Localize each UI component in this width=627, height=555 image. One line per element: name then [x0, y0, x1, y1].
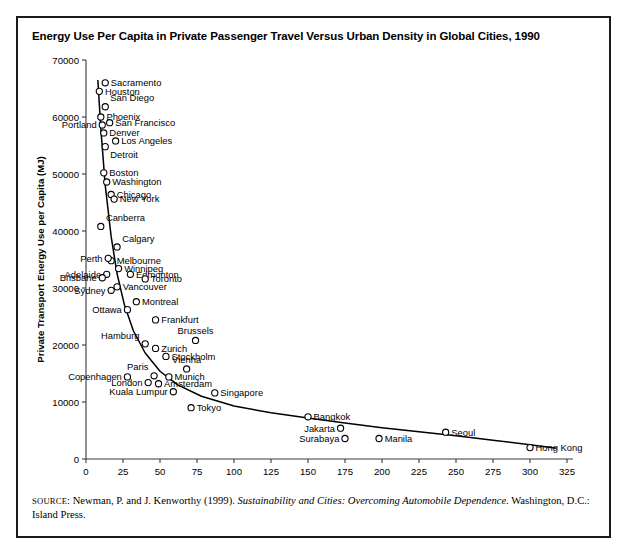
data-point: Portland — [62, 119, 106, 130]
point-marker — [98, 223, 104, 229]
x-tick-label: 275 — [485, 466, 501, 477]
x-tick-label: 50 — [155, 466, 166, 477]
x-tick-label: 200 — [374, 466, 390, 477]
point-marker — [114, 284, 120, 290]
x-tick-label: 225 — [411, 466, 427, 477]
point-label: Washington — [112, 176, 161, 187]
point-label: Hamburg — [101, 330, 140, 341]
x-tick-label: 125 — [263, 466, 279, 477]
point-label: Paris — [127, 361, 149, 372]
point-label: Hong Kong — [536, 442, 583, 453]
source-book-title: Sustainability and Cities: Overcoming Au… — [237, 495, 506, 506]
x-tick-label: 0 — [83, 466, 88, 477]
data-point: Singapore — [212, 387, 263, 398]
point-label: Detroit — [110, 149, 138, 160]
data-point: Kuala Lumpur — [109, 386, 176, 397]
point-marker — [527, 445, 533, 451]
point-marker — [102, 144, 108, 150]
point-marker — [443, 429, 449, 435]
scatter-plot-svg: 0100002000030000400005000060000700000255… — [18, 52, 609, 484]
data-point: Bangkok — [305, 411, 350, 422]
point-label: Seoul — [451, 427, 475, 438]
y-axis-title: Private Transport Energy Use per Capita … — [35, 156, 46, 362]
point-marker — [98, 114, 104, 120]
point-label: Vancouver — [123, 281, 167, 292]
data-point: Sydney — [74, 285, 114, 296]
data-point: Vancouver — [114, 281, 167, 292]
data-point: Perth — [80, 253, 111, 264]
point-label: Ottawa — [92, 304, 122, 315]
point-marker — [188, 405, 194, 411]
point-label: Portland — [62, 119, 97, 130]
point-label: Perth — [80, 253, 102, 264]
point-marker — [337, 425, 343, 431]
point-marker — [108, 287, 114, 293]
data-point: Frankfurt — [152, 314, 199, 325]
point-marker — [114, 244, 120, 250]
point-marker — [124, 307, 130, 313]
data-point: Manila — [376, 433, 413, 444]
point-label: Vienna — [172, 354, 202, 365]
point-label: Singapore — [220, 387, 263, 398]
point-marker — [151, 373, 157, 379]
point-marker — [163, 353, 169, 359]
x-tick-label: 25 — [118, 466, 129, 477]
point-marker — [133, 299, 139, 305]
point-marker — [152, 345, 158, 351]
point-label: Canberra — [106, 212, 146, 223]
data-point: Canberra — [98, 212, 146, 229]
point-marker — [99, 275, 105, 281]
point-label: Sydney — [74, 285, 106, 296]
point-marker — [127, 271, 133, 277]
point-label: Calgary — [122, 233, 155, 244]
figure-page: Energy Use Per Capita in Private Passeng… — [0, 0, 627, 555]
y-tick-label: 70000 — [52, 55, 79, 66]
point-label: Amsterdam — [164, 378, 212, 389]
source-label: SOURCE — [32, 496, 67, 506]
data-point: Calgary — [114, 233, 155, 250]
point-label: Los Angeles — [121, 135, 172, 146]
point-marker — [170, 389, 176, 395]
point-label: Bangkok — [314, 411, 351, 422]
point-label: Manila — [385, 433, 413, 444]
point-marker — [142, 341, 148, 347]
point-label: Surabaya — [299, 433, 340, 444]
point-marker — [305, 414, 311, 420]
point-label: Brisbane — [60, 272, 97, 283]
data-point: Montreal — [133, 296, 178, 307]
data-point: Hong Kong — [527, 442, 583, 453]
x-tick-label: 100 — [226, 466, 242, 477]
y-tick-label: 40000 — [52, 226, 79, 237]
data-point: Surabaya — [299, 433, 348, 444]
point-marker — [105, 255, 111, 261]
data-point: Los Angeles — [113, 135, 173, 146]
data-point: Brussels — [178, 325, 214, 343]
data-point: Tokyo — [188, 402, 221, 413]
point-marker — [107, 120, 113, 126]
point-marker — [101, 130, 107, 136]
data-point: San Diego — [102, 92, 154, 109]
point-label: Frankfurt — [161, 314, 199, 325]
point-marker — [96, 88, 102, 94]
point-marker — [192, 337, 198, 343]
point-marker — [376, 435, 382, 441]
data-point: Vienna — [172, 354, 202, 372]
point-marker — [115, 266, 121, 272]
point-label: Brussels — [178, 325, 214, 336]
data-point: Seoul — [443, 427, 476, 438]
point-marker — [342, 435, 348, 441]
point-marker — [145, 380, 151, 386]
point-label: Tokyo — [197, 402, 222, 413]
x-tick-label: 175 — [337, 466, 353, 477]
source-note: SOURCE: Newman, P. and J. Kenworthy (199… — [32, 494, 598, 522]
x-tick-label: 250 — [448, 466, 464, 477]
x-tick-label: 150 — [300, 466, 316, 477]
y-tick-label: 10000 — [52, 397, 79, 408]
y-tick-label: 50000 — [52, 169, 79, 180]
y-tick-label: 0 — [74, 454, 79, 465]
point-label: New York — [120, 193, 160, 204]
point-marker — [113, 138, 119, 144]
x-tick-label: 325 — [559, 466, 575, 477]
point-label: Montreal — [142, 296, 178, 307]
point-marker — [111, 196, 117, 202]
